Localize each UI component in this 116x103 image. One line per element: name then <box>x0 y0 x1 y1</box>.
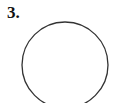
circle-figure <box>0 0 116 103</box>
circle-shape <box>22 22 108 103</box>
